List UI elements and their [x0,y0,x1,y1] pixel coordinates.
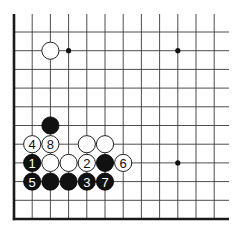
white-stone [42,154,59,171]
black-stone [60,173,77,190]
black-stone: 3 [78,173,95,190]
black-stone-icon [60,173,77,190]
move-number: 8 [47,137,54,152]
white-stone-icon [60,154,77,171]
move-number: 1 [29,156,36,171]
black-stone-icon [42,173,59,190]
white-stone: 2 [78,154,95,171]
move-number: 5 [29,175,36,190]
move-number: 6 [120,156,127,171]
move-number: 3 [83,175,90,190]
star-point-icon [66,48,71,53]
go-board: 48126537 [0,0,239,230]
move-number: 2 [83,156,90,171]
white-stone [96,136,113,153]
white-stone: 4 [24,136,41,153]
black-stone-icon [96,154,113,171]
stones-layer: 48126537 [24,42,132,190]
white-stone [42,42,59,59]
black-stone: 1 [24,154,41,171]
move-number: 4 [29,137,36,152]
white-stone-icon [42,154,59,171]
white-stone [60,154,77,171]
white-stone-icon [42,42,59,59]
white-stone: 8 [42,136,59,153]
black-stone [42,117,59,134]
white-stone-icon [96,136,113,153]
black-stone: 5 [24,173,41,190]
black-stone: 7 [96,173,113,190]
move-number: 7 [101,175,108,190]
black-stone [96,154,113,171]
star-point-icon [175,48,180,53]
white-stone-icon [78,136,95,153]
black-stone [42,173,59,190]
star-point-icon [175,160,180,165]
white-stone [78,136,95,153]
black-stone-icon [42,117,59,134]
white-stone: 6 [115,154,132,171]
